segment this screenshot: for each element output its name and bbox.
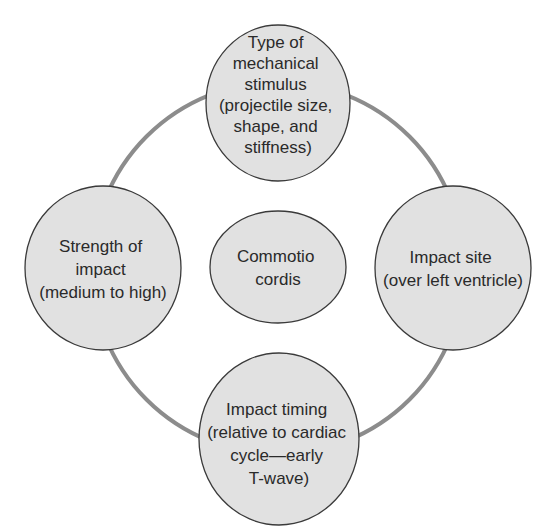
node-center: Commotio cordis [210,211,346,323]
node-right-shape [375,186,531,350]
node-center-shape [210,211,346,323]
node-top-line: shape, and [234,117,318,136]
node-bottom-line: (relative to cardiac [207,423,346,442]
node-right-line: (over left ventricle) [383,271,523,290]
node-top-line: stiffness) [244,138,312,157]
node-left-line: Strength of [59,237,142,256]
node-bottom: Impact timing (relative to cardiac cycle… [199,353,359,525]
node-bottom-line: cycle—early [230,446,323,465]
node-center-line: cordis [255,270,300,289]
node-bottom-line: Impact timing [226,400,327,419]
node-top-line: stimulus [244,75,306,94]
node-left-line: impact [76,260,126,279]
node-left-line: (medium to high) [39,283,167,302]
node-bottom-line: T-wave) [249,469,309,488]
node-left: Strength of impact (medium to high) [25,186,181,350]
node-top-line: (projectile size, [219,96,332,115]
node-top: Type of mechanical stimulus (projectile … [206,25,350,181]
node-top-line: Type of [248,33,304,52]
node-top-line: mechanical [233,54,319,73]
node-center-line: Commotio [237,247,314,266]
node-right: Impact site (over left ventricle) [375,186,531,350]
commotio-cordis-diagram: Type of mechanical stimulus (projectile … [0,0,547,526]
node-right-line: Impact site [410,248,492,267]
